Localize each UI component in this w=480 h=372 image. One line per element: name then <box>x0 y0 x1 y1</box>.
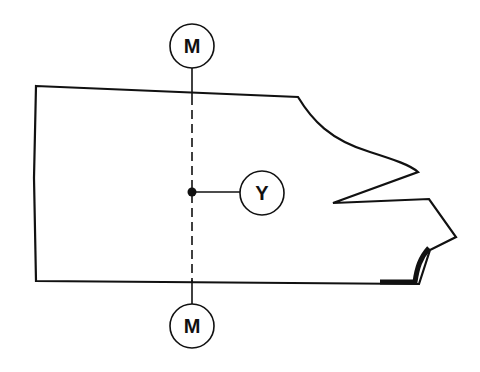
bottom-m-label: M <box>184 315 201 337</box>
bottom-m-marker: M <box>170 304 214 348</box>
y-label: Y <box>255 182 269 204</box>
diagram-svg: M M Y <box>0 0 480 372</box>
top-m-label: M <box>184 35 201 57</box>
diagram-canvas: M M Y <box>0 0 480 372</box>
y-marker: Y <box>240 171 284 215</box>
top-m-marker: M <box>170 24 214 68</box>
